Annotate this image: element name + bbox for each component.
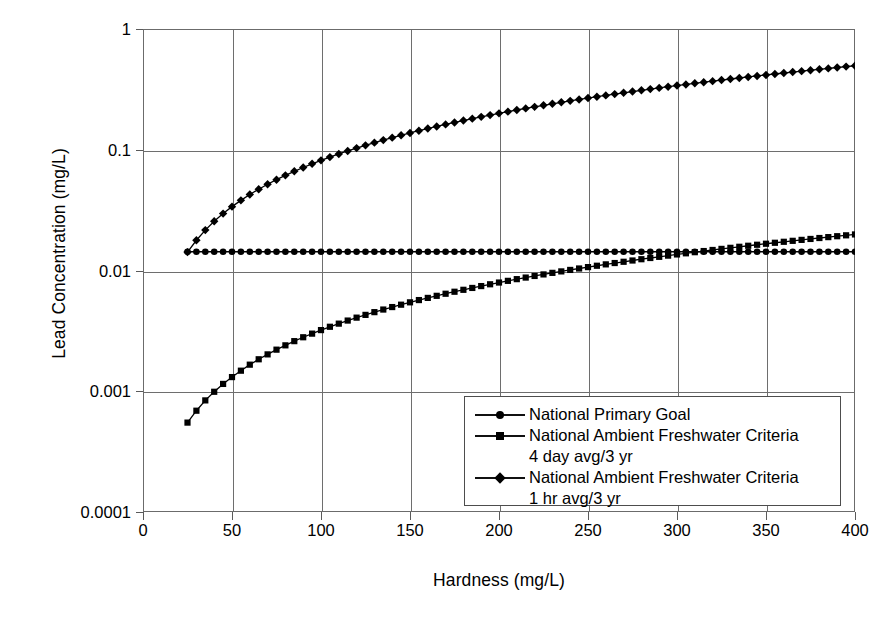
data-point-square xyxy=(380,306,386,312)
data-point-circle xyxy=(318,248,325,255)
data-point-circle xyxy=(336,248,343,255)
data-point-square xyxy=(790,238,796,244)
data-point-diamond xyxy=(664,83,672,91)
data-point-diamond xyxy=(780,69,788,77)
data-point-square xyxy=(683,250,689,256)
data-point-square xyxy=(594,263,600,269)
data-point-diamond xyxy=(673,81,681,89)
data-point-square xyxy=(710,247,716,253)
data-point-square xyxy=(211,389,217,395)
x-tick-label: 200 xyxy=(485,521,513,540)
x-tick-mark xyxy=(321,512,322,520)
data-point-square xyxy=(434,293,440,299)
data-point-circle xyxy=(309,248,316,255)
diamond-marker-icon xyxy=(494,472,505,483)
legend-row: 1 hr avg/3 yr xyxy=(465,488,840,509)
data-point-square xyxy=(478,283,484,289)
x-tick-label: 50 xyxy=(223,521,241,540)
data-point-circle xyxy=(300,248,307,255)
data-point-circle xyxy=(487,248,494,255)
data-point-circle xyxy=(264,248,271,255)
data-point-square xyxy=(345,317,351,323)
data-point-circle xyxy=(843,248,850,255)
data-point-circle xyxy=(469,248,476,255)
data-point-square xyxy=(718,246,724,252)
data-point-diamond xyxy=(246,190,254,198)
legend-label: National Ambient Freshwater Criteria xyxy=(529,467,799,488)
data-point-circle xyxy=(549,248,556,255)
data-point-diamond xyxy=(619,89,627,97)
data-point-circle xyxy=(371,248,378,255)
data-point-square xyxy=(416,297,422,303)
data-point-diamond xyxy=(344,147,352,155)
legend-row: 4 day avg/3 yr xyxy=(465,446,840,467)
data-point-square xyxy=(603,261,609,267)
data-point-diamond xyxy=(433,122,441,130)
data-point-square xyxy=(487,281,493,287)
data-point-square xyxy=(558,268,564,274)
data-point-square xyxy=(371,309,377,315)
series-line xyxy=(188,66,856,252)
data-point-diamond xyxy=(708,77,716,85)
data-point-circle xyxy=(478,248,485,255)
data-point-diamond xyxy=(726,75,734,83)
data-point-circle xyxy=(647,248,654,255)
data-point-diamond xyxy=(548,100,556,108)
data-point-diamond xyxy=(361,141,369,149)
data-point-circle xyxy=(211,248,218,255)
data-point-circle xyxy=(531,248,538,255)
data-point-diamond xyxy=(335,150,343,158)
x-tick-mark xyxy=(588,512,589,520)
data-point-diamond xyxy=(441,120,449,128)
data-point-square xyxy=(327,324,333,330)
data-point-circle xyxy=(825,248,832,255)
data-point-square xyxy=(389,304,395,310)
data-point-square xyxy=(443,291,449,297)
data-point-square xyxy=(807,236,813,242)
legend-key-square xyxy=(471,425,529,446)
data-point-square xyxy=(665,253,671,259)
data-point-circle xyxy=(514,248,521,255)
data-point-diamond xyxy=(370,138,378,146)
data-point-square xyxy=(745,243,751,249)
data-point-diamond xyxy=(851,62,855,70)
data-point-circle xyxy=(834,248,841,255)
data-point-diamond xyxy=(637,86,645,94)
data-point-diamond xyxy=(753,72,761,80)
data-point-square xyxy=(834,233,840,239)
data-point-square xyxy=(220,381,226,387)
data-point-square xyxy=(354,315,360,321)
data-point-square xyxy=(273,347,279,353)
data-point-circle xyxy=(229,248,236,255)
data-point-square xyxy=(701,248,707,254)
data-point-diamond xyxy=(744,73,752,81)
data-point-circle xyxy=(327,248,334,255)
legend-label: 4 day avg/3 yr xyxy=(529,446,633,467)
data-point-square xyxy=(256,356,262,362)
data-point-square xyxy=(674,251,680,257)
data-point-circle xyxy=(273,248,280,255)
data-point-circle xyxy=(781,248,788,255)
data-point-diamond xyxy=(255,185,263,193)
data-point-diamond xyxy=(789,68,797,76)
data-point-circle xyxy=(425,248,432,255)
data-point-square xyxy=(238,368,244,374)
data-point-circle xyxy=(620,248,627,255)
data-point-circle xyxy=(558,248,565,255)
data-point-diamond xyxy=(806,66,814,74)
data-point-diamond xyxy=(290,167,298,175)
data-point-square xyxy=(852,231,855,237)
series-line xyxy=(188,234,856,422)
data-point-square xyxy=(398,302,404,308)
data-point-square xyxy=(193,408,199,414)
x-tick-mark xyxy=(855,512,856,520)
data-point-circle xyxy=(807,248,814,255)
square-marker-icon xyxy=(496,432,504,440)
series-0 xyxy=(184,248,855,255)
data-point-circle xyxy=(460,248,467,255)
data-point-circle xyxy=(567,248,574,255)
data-point-diamond xyxy=(237,196,245,204)
data-point-diamond xyxy=(263,180,271,188)
x-tick-mark xyxy=(143,512,144,520)
data-point-diamond xyxy=(406,129,414,137)
